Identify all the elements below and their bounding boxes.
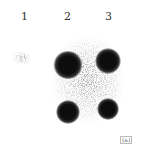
spot-lane3-lower (97, 98, 119, 120)
spot-lane3-upper (95, 48, 121, 74)
panel-mark: (a) (120, 136, 132, 144)
blot-figure: 1 2 3 (a) (0, 0, 143, 152)
spot-lane2-lower (56, 100, 80, 124)
spot-lane2-upper (53, 51, 83, 79)
